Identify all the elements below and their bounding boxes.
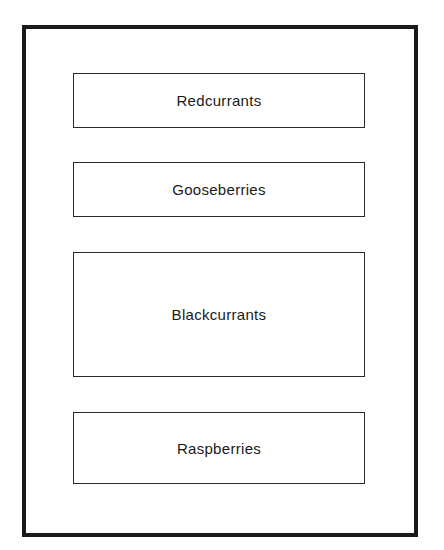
bed-label: Raspberries (177, 440, 261, 457)
bed-label: Blackcurrants (172, 306, 267, 323)
bed-label: Gooseberries (172, 181, 266, 198)
bed-redcurrants: Redcurrants (73, 73, 365, 128)
bed-blackcurrants: Blackcurrants (73, 252, 365, 377)
bed-gooseberries: Gooseberries (73, 162, 365, 217)
bed-label: Redcurrants (176, 92, 261, 109)
bed-raspberries: Raspberries (73, 412, 365, 484)
